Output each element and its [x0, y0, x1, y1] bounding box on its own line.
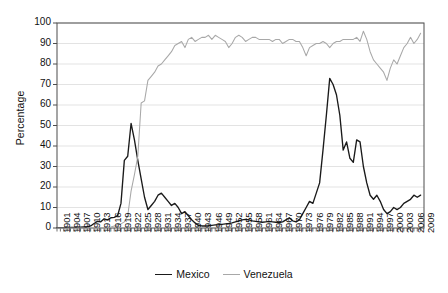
- chart-figure: Percentage 0102030405060708090100 190119…: [0, 0, 448, 293]
- legend-item-mexico[interactable]: Mexico: [155, 268, 209, 280]
- y-tick-label: 30: [17, 160, 51, 171]
- y-tick-label: 100: [17, 16, 51, 27]
- x-tick-label: 2006: [415, 213, 426, 233]
- y-tick-label: 0: [17, 221, 51, 232]
- x-tick-label: 1949: [223, 213, 234, 233]
- x-tick-label: 1976: [314, 213, 325, 233]
- y-tick-label: 80: [17, 57, 51, 68]
- x-tick-label: 1973: [303, 213, 314, 233]
- y-tick-label: 70: [17, 78, 51, 89]
- y-tick-label: 60: [17, 98, 51, 109]
- y-tick-label: 40: [17, 139, 51, 150]
- y-tick-label: 90: [17, 37, 51, 48]
- x-tick-label: 1943: [202, 213, 213, 233]
- x-tick-label: 1916: [112, 213, 123, 233]
- series-line-mexico: [57, 78, 421, 227]
- legend-swatch-icon: [155, 274, 172, 275]
- x-tick-label: 1919: [122, 213, 133, 233]
- x-tick-label: 2003: [404, 213, 415, 233]
- series-line-venezuela: [57, 31, 421, 228]
- chart-legend: MexicoVenezuela: [0, 268, 448, 280]
- x-tick-label: 1979: [324, 213, 335, 233]
- legend-item-venezuela[interactable]: Venezuela: [223, 268, 293, 280]
- x-tick-label: 1946: [213, 213, 224, 233]
- plot-area: [0, 0, 448, 293]
- x-tick-label: 1913: [101, 213, 112, 233]
- y-tick-label: 50: [17, 119, 51, 130]
- legend-label: Mexico: [176, 268, 209, 280]
- legend-label: Venezuela: [244, 268, 293, 280]
- legend-swatch-icon: [223, 274, 240, 275]
- x-tick-label: 2009: [425, 213, 436, 233]
- y-tick-label: 20: [17, 180, 51, 191]
- y-tick-label: 10: [17, 201, 51, 212]
